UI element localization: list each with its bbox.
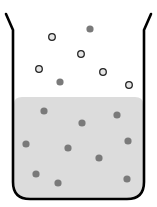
hollow-particle	[49, 34, 56, 41]
filled-particle	[40, 107, 47, 114]
filled-particle	[78, 119, 85, 126]
filled-particle	[113, 111, 120, 118]
filled-particle	[32, 170, 39, 177]
liquid	[14, 97, 143, 198]
filled-particle	[95, 154, 102, 161]
filled-particle	[56, 78, 63, 85]
filled-particle	[123, 175, 130, 182]
filled-particle	[54, 179, 61, 186]
filled-particle	[124, 137, 131, 144]
beaker-svg	[0, 0, 157, 207]
gas-particles	[36, 25, 133, 88]
filled-particle	[64, 144, 71, 151]
hollow-particle	[78, 51, 85, 58]
filled-particle	[86, 25, 93, 32]
beaker-diagram	[0, 0, 157, 207]
hollow-particle	[36, 66, 43, 73]
hollow-particle	[100, 69, 107, 76]
filled-particle	[22, 140, 29, 147]
hollow-particle	[126, 82, 133, 89]
